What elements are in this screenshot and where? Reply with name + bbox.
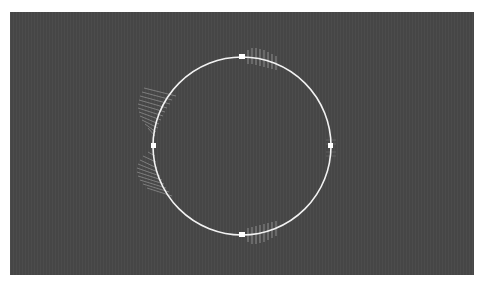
- drawing-canvas[interactable]: [10, 12, 474, 275]
- handle-left[interactable]: [151, 143, 156, 148]
- handle-top[interactable]: [239, 54, 245, 59]
- handle-bottom[interactable]: [239, 232, 245, 237]
- canvas-svg: [10, 12, 474, 275]
- handle-right[interactable]: [328, 143, 333, 148]
